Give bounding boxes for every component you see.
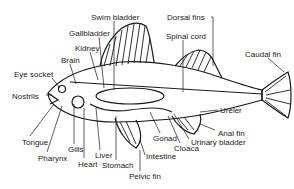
label-dorsal-fins: Dorsal fins xyxy=(167,13,205,22)
label-intestine: Intestine xyxy=(146,152,176,161)
label-pharynx: Pharynx xyxy=(38,154,67,163)
label-heart: Heart xyxy=(78,160,98,169)
label-pelvic-fin: Pelvic fin xyxy=(129,172,161,181)
label-gills: Gills xyxy=(68,145,84,154)
label-swim-bladder: Swim bladder xyxy=(91,13,139,22)
label-gallbladder: Gallbladder xyxy=(69,29,110,38)
label-kidney: Kidney xyxy=(75,44,99,53)
label-brain: Brain xyxy=(61,56,80,65)
label-urinary-bladder: Urinary bladder xyxy=(191,138,246,147)
label-tongue: Tongue xyxy=(22,138,48,147)
label-ureter: Ureler xyxy=(220,106,242,115)
label-spinal-cord: Spinal cord xyxy=(166,32,206,41)
label-anal-fin: Anal fin xyxy=(218,129,245,138)
fish-anatomy-diagram: Swim bladder Dorsal fins Gallbladder Spi… xyxy=(0,0,294,189)
label-eye-socket: Eye socket xyxy=(14,70,53,79)
label-liver: Liver xyxy=(95,151,112,160)
label-caudal-fin: Caudal fin xyxy=(245,50,281,59)
label-cloaca: Cloaca xyxy=(174,144,199,153)
label-gonad: Gonad xyxy=(153,134,177,143)
label-nostrils: Nostrils xyxy=(12,92,39,101)
label-stomach: Stomach xyxy=(102,161,134,170)
